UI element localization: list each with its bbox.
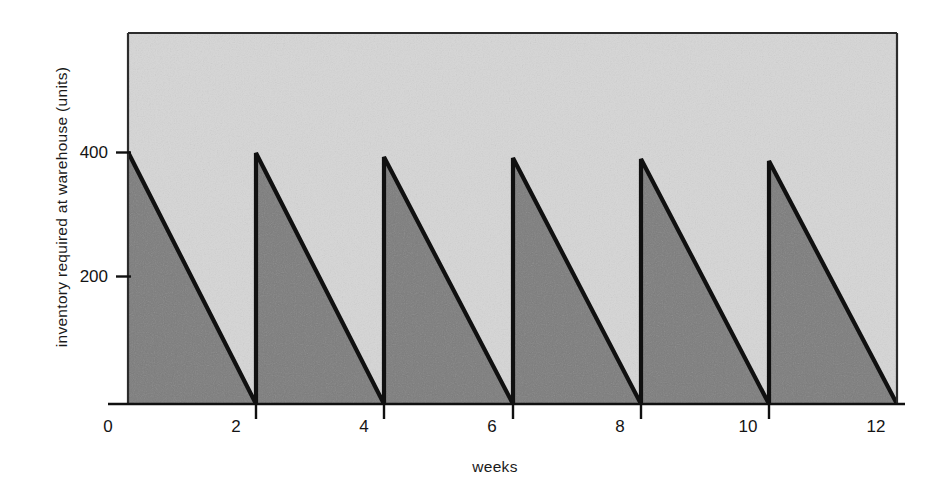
chart-figure: inventory required at warehouse (units) …: [0, 0, 938, 504]
chart-plot-area: [0, 0, 938, 504]
